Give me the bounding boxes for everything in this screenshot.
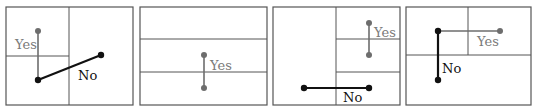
panel-1-root-point — [35, 77, 41, 83]
panel-1-no-label: No — [78, 68, 97, 83]
panel-4-yes-label: Yes — [476, 34, 499, 49]
panel-2-top-point — [201, 52, 207, 58]
panel-3: Yes No — [273, 7, 400, 105]
panel-2-bottom-point — [201, 85, 207, 91]
panel-4-no-label: No — [442, 61, 461, 76]
panel-2: Yes — [140, 7, 267, 105]
panel-3-yes-top-point — [366, 20, 372, 26]
panel-4-root-point — [435, 28, 441, 34]
panel-3-yes-label: Yes — [373, 25, 396, 40]
panel-3-no-left-point — [301, 85, 307, 91]
panel-3-yes-bottom-point — [366, 52, 372, 58]
panel-3-no-right-point — [366, 85, 372, 91]
panel-3-no-label: No — [343, 90, 362, 105]
panel-1-yes-point — [35, 28, 41, 34]
kd-tree-partition-diagram: Yes No Yes Yes No Yes No — [0, 0, 536, 110]
panel-2-yes-label: Yes — [209, 58, 232, 73]
panel-1: Yes No — [6, 7, 133, 105]
panel-4: Yes No — [406, 7, 531, 105]
panel-4-no-point — [435, 77, 441, 83]
panel-1-no-point — [98, 52, 104, 58]
panel-1-yes-label: Yes — [14, 37, 37, 52]
